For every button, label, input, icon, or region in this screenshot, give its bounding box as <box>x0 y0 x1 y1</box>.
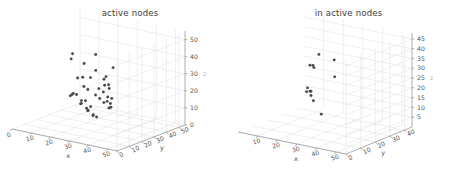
svg-text:x: x <box>294 155 298 163</box>
svg-text:40: 40 <box>82 146 91 155</box>
svg-text:30: 30 <box>291 145 300 154</box>
svg-text:50: 50 <box>190 36 198 43</box>
svg-text:20: 20 <box>44 138 53 147</box>
svg-text:10: 10 <box>417 104 425 111</box>
svg-text:5: 5 <box>417 113 421 120</box>
chart-panel-active-nodes: active nodes 01020304050x01020304050y010… <box>0 0 228 190</box>
svg-text:y: y <box>160 144 164 152</box>
axes3d-active-nodes: 01020304050x01020304050y01020304050z <box>0 0 228 190</box>
datapoints-left <box>69 52 115 118</box>
svg-text:y: y <box>381 149 385 157</box>
svg-text:10: 10 <box>25 134 34 143</box>
gridlines-left <box>12 9 185 151</box>
svg-text:25: 25 <box>417 74 425 81</box>
svg-text:50: 50 <box>101 150 110 159</box>
gridlines-right <box>238 15 412 154</box>
svg-text:35: 35 <box>417 55 425 62</box>
svg-text:50: 50 <box>330 153 339 162</box>
axes3d-inactive-nodes: 1020304050x010203040y51015202530354045z <box>228 0 457 190</box>
svg-text:x: x <box>66 152 70 160</box>
svg-text:z: z <box>203 70 207 78</box>
axislines-right <box>238 33 414 156</box>
svg-text:30: 30 <box>190 70 198 77</box>
svg-text:10: 10 <box>190 104 198 111</box>
svg-text:z: z <box>430 74 434 82</box>
svg-text:30: 30 <box>63 142 72 151</box>
svg-text:45: 45 <box>417 35 425 42</box>
chart-panel-inactive-nodes: in active nodes 1020304050x010203040y510… <box>228 0 457 190</box>
svg-text:0: 0 <box>118 150 125 158</box>
svg-text:40: 40 <box>417 45 425 52</box>
svg-text:40: 40 <box>311 149 320 158</box>
svg-text:0: 0 <box>190 121 194 128</box>
svg-text:15: 15 <box>417 94 425 101</box>
svg-text:0: 0 <box>347 153 354 161</box>
svg-text:20: 20 <box>271 141 280 150</box>
svg-text:40: 40 <box>190 53 198 60</box>
svg-text:10: 10 <box>252 137 261 146</box>
svg-text:30: 30 <box>417 64 425 71</box>
figure-canvas: active nodes 01020304050x01020304050y010… <box>0 0 457 190</box>
svg-text:20: 20 <box>190 87 198 94</box>
svg-text:20: 20 <box>417 84 425 91</box>
svg-text:0: 0 <box>6 131 12 139</box>
datapoints-right <box>305 53 336 116</box>
